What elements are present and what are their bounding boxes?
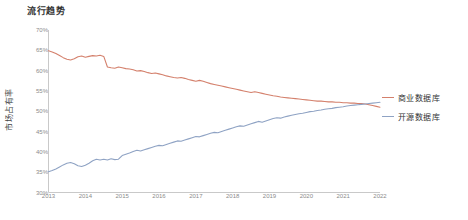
x-axis-tick-labels: 2013201420152016201720182019202020212022: [0, 193, 468, 205]
x-tick-label: 2020: [286, 193, 326, 199]
x-tick-label: 2013: [29, 193, 69, 199]
series-line: [49, 51, 381, 107]
x-tick-label: 2016: [139, 193, 179, 199]
x-tick-label: 2015: [102, 193, 142, 199]
axis-lines: [49, 30, 381, 193]
data-series-group: [49, 51, 381, 172]
x-tick-label: 2021: [323, 193, 363, 199]
x-tick-label: 2017: [176, 193, 216, 199]
x-tick-label: 2022: [360, 193, 400, 199]
legend-color-swatch: [382, 97, 394, 98]
legend-item-label: 开源数据库: [398, 111, 440, 122]
x-tick-label: 2014: [65, 193, 105, 199]
series-line: [49, 102, 381, 171]
x-tick-label: 2019: [250, 193, 290, 199]
chart-legend: 商业数据库开源数据库: [382, 88, 468, 126]
trend-chart: 流行趋势 市场占有率 30%35%40%45%50%55%60%65%70% 2…: [0, 0, 468, 220]
legend-item[interactable]: 商业数据库: [382, 88, 468, 107]
x-tick-label: 2018: [213, 193, 253, 199]
legend-item-label: 商业数据库: [398, 92, 440, 103]
legend-item[interactable]: 开源数据库: [382, 107, 468, 126]
legend-color-swatch: [382, 116, 394, 117]
